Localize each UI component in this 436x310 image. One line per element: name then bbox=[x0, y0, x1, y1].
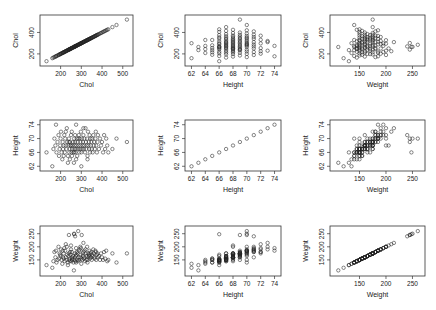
data-points bbox=[190, 18, 276, 63]
y-axis-label: Chol bbox=[157, 33, 164, 48]
point-marker bbox=[58, 147, 61, 150]
x-tick-label: 300 bbox=[76, 280, 87, 287]
point-marker bbox=[384, 127, 387, 130]
x-tick-label: 300 bbox=[76, 70, 87, 77]
x-tick-label: 200 bbox=[55, 70, 66, 77]
point-marker bbox=[350, 165, 353, 168]
point-marker bbox=[82, 127, 85, 130]
point-marker bbox=[45, 263, 48, 266]
point-marker bbox=[273, 44, 276, 47]
data-points bbox=[45, 229, 129, 272]
point-marker bbox=[66, 154, 69, 157]
point-marker bbox=[384, 53, 387, 56]
y-tick-label: 200 bbox=[28, 241, 35, 252]
point-marker bbox=[115, 137, 118, 140]
panel-height-vs-weight: 15020025062667074WeightHeight bbox=[302, 120, 425, 194]
point-marker bbox=[72, 269, 75, 272]
point-marker bbox=[72, 161, 75, 164]
point-marker bbox=[224, 29, 227, 32]
point-marker bbox=[65, 147, 68, 150]
y-tick-label: 400 bbox=[318, 27, 325, 38]
x-tick-label: 500 bbox=[117, 70, 128, 77]
x-tick-label: 64 bbox=[202, 280, 210, 287]
point-marker bbox=[252, 30, 255, 33]
point-marker bbox=[366, 147, 369, 150]
data-points bbox=[337, 123, 420, 168]
point-marker bbox=[363, 133, 366, 136]
x-tick-label: 400 bbox=[97, 175, 108, 182]
point-marker bbox=[342, 165, 345, 168]
point-marker bbox=[57, 154, 60, 157]
point-marker bbox=[61, 158, 64, 161]
point-marker bbox=[45, 151, 48, 154]
point-marker bbox=[416, 43, 419, 46]
panel-weight-vs-chol: 200300400500150200250CholWeight bbox=[12, 226, 133, 298]
point-marker bbox=[125, 140, 128, 143]
point-marker bbox=[96, 133, 99, 136]
scatterplot-matrix: 200300400500200400CholChol62646668707274… bbox=[0, 0, 436, 310]
point-marker bbox=[416, 137, 419, 140]
point-marker bbox=[61, 147, 64, 150]
point-marker bbox=[337, 269, 340, 272]
point-marker bbox=[59, 130, 62, 133]
point-marker bbox=[74, 158, 77, 161]
x-tick-label: 74 bbox=[271, 175, 279, 182]
point-marker bbox=[80, 233, 83, 236]
y-axis-label: Weight bbox=[302, 240, 310, 262]
x-tick-label: 500 bbox=[117, 175, 128, 182]
point-marker bbox=[111, 252, 114, 255]
point-marker bbox=[57, 133, 60, 136]
point-marker bbox=[204, 44, 207, 47]
point-marker bbox=[88, 133, 91, 136]
y-tick-label: 250 bbox=[318, 228, 325, 239]
point-marker bbox=[337, 161, 340, 164]
y-axis-label: Weight bbox=[12, 240, 20, 262]
point-marker bbox=[69, 133, 72, 136]
point-marker bbox=[245, 229, 248, 232]
point-marker bbox=[204, 47, 207, 50]
point-marker bbox=[273, 246, 276, 249]
point-marker bbox=[231, 31, 234, 34]
point-marker bbox=[387, 47, 390, 50]
point-marker bbox=[353, 23, 356, 26]
point-marker bbox=[83, 151, 86, 154]
point-marker bbox=[99, 144, 102, 147]
point-marker bbox=[376, 123, 379, 126]
point-marker bbox=[74, 246, 77, 249]
point-marker bbox=[406, 133, 409, 136]
y-tick-label: 200 bbox=[173, 48, 180, 59]
point-marker bbox=[80, 165, 83, 168]
point-marker bbox=[406, 45, 409, 48]
point-marker bbox=[204, 51, 207, 54]
point-marker bbox=[197, 161, 200, 164]
y-tick-label: 250 bbox=[28, 228, 35, 239]
point-marker bbox=[79, 130, 82, 133]
x-tick-label: 500 bbox=[117, 280, 128, 287]
data-points bbox=[190, 123, 276, 168]
point-marker bbox=[238, 31, 241, 34]
point-marker bbox=[382, 123, 385, 126]
point-marker bbox=[371, 144, 374, 147]
x-tick-label: 150 bbox=[354, 70, 365, 77]
point-marker bbox=[204, 38, 207, 41]
point-marker bbox=[245, 137, 248, 140]
point-marker bbox=[382, 130, 385, 133]
x-tick-label: 62 bbox=[188, 175, 196, 182]
x-axis-label: Weight bbox=[367, 291, 389, 299]
panel-weight-vs-weight: 150200250150200250WeightWeight bbox=[302, 226, 425, 299]
point-marker bbox=[259, 34, 262, 37]
plot-frame bbox=[185, 120, 281, 171]
x-tick-label: 200 bbox=[381, 175, 392, 182]
y-tick-label: 66 bbox=[318, 148, 325, 156]
point-marker bbox=[70, 154, 73, 157]
x-tick-label: 64 bbox=[202, 175, 210, 182]
panel-weight-vs-height: 62646668707274150200250HeightWeight bbox=[157, 226, 281, 299]
data-points bbox=[45, 123, 129, 168]
y-tick-label: 70 bbox=[173, 135, 180, 143]
point-marker bbox=[371, 147, 374, 150]
point-marker bbox=[252, 33, 255, 36]
x-axis-label: Height bbox=[223, 81, 243, 89]
point-marker bbox=[190, 57, 193, 60]
point-marker bbox=[94, 130, 97, 133]
x-tick-label: 250 bbox=[407, 175, 418, 182]
